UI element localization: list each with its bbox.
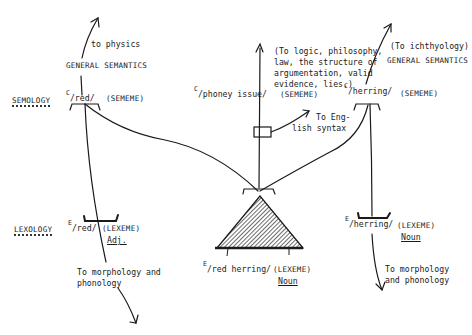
syntax-note-1: To Eng- — [316, 112, 351, 123]
sememe-red: C/red/ — [66, 91, 95, 103]
hatched-triangle — [217, 196, 303, 248]
morphology-label-right-2: and phonology — [385, 275, 449, 286]
syntax-box — [254, 127, 271, 137]
morphology-label-left-2: phonology — [77, 278, 121, 289]
stratum-semology: SEMOLOGY — [12, 96, 50, 107]
sememe-red-tag: (SEMEME) — [106, 94, 144, 105]
lexeme-red-class: Adj. — [107, 235, 127, 246]
logic-note-3: argumentation, valid — [274, 68, 373, 79]
arrow-to-morphology-right — [372, 234, 382, 290]
arrow-to-physics — [82, 18, 98, 58]
syntax-note-2: lish syntax — [292, 123, 346, 134]
logic-note-1: (To logic, philosophy, — [274, 46, 382, 57]
general-semantics-left: GENERAL SEMANTICS — [66, 61, 147, 72]
lexeme-red-tag: (LEXEME) — [102, 224, 140, 235]
phoney-issue-line — [259, 48, 260, 188]
lexeme-red-herring-tag: (LEXEME) — [273, 265, 311, 276]
sememe-herring: C/herring/ — [344, 84, 392, 96]
lexeme-red-herring: E/red herring/ — [203, 262, 271, 274]
lexeme-herring: E/herring/ — [345, 217, 393, 229]
lexeme-herring-tag: (LEXEME) — [397, 221, 435, 232]
logic-note-4: evidence, lies.) — [274, 79, 353, 90]
red-realization-line — [85, 104, 106, 262]
herring-realization-line — [370, 104, 372, 216]
sememe-herring-tag: (SEMEME) — [400, 89, 438, 100]
stratum-lexology: LEXOLOGY — [14, 225, 52, 236]
lexeme-herring-class: Noun — [401, 232, 421, 243]
lexeme-red: E/red/ — [68, 221, 97, 233]
ichthyology-note: (To ichthyology) — [390, 41, 469, 52]
logic-note-2: law, the structure of — [274, 57, 378, 68]
red-herring-node — [243, 189, 275, 194]
red-to-red-herring-line — [85, 104, 258, 191]
to-physics-label: to physics — [91, 39, 140, 50]
arrow-to-morphology-left — [118, 288, 136, 323]
sememe-phoney-issue-tag: (SEMEME) — [280, 90, 318, 101]
general-semantics-right: GENERAL SEMANTICS — [387, 56, 468, 67]
morphology-label-left-1: To morphology and — [77, 267, 161, 278]
herring-to-red-herring-line — [260, 105, 368, 191]
sememe-phoney-issue: C/phoney issue/ — [194, 87, 267, 99]
morphology-label-right-1: To morphology — [385, 264, 449, 275]
lexeme-red-herring-class: Noun — [278, 276, 298, 287]
